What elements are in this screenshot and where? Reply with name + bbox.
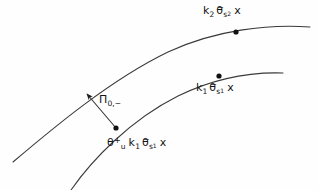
label-mid-point: k1θ−s1x: [196, 82, 234, 95]
top-marker: [233, 29, 238, 34]
x-symbol: x: [234, 4, 241, 17]
theta-overbar: −: [210, 81, 217, 89]
x-symbol: x: [160, 136, 167, 149]
label-projection: Π0,−: [99, 94, 121, 107]
theta-sub-subscript: 1: [153, 142, 157, 149]
theta-u-superscript: +: [114, 136, 121, 145]
label-bottom-point: θ+uk1θ−s1x: [107, 137, 167, 151]
k-symbol: k: [203, 4, 210, 17]
theta-u-subscript: u: [121, 142, 126, 151]
theta-u-symbol: θ: [107, 136, 114, 149]
pi-subscript: 0,−: [107, 99, 120, 108]
k-symbol: k: [196, 81, 203, 94]
k-subscript: 2: [210, 10, 215, 19]
mid-marker: [216, 73, 221, 78]
k-subscript: 1: [135, 142, 140, 151]
theta-bar-group: θ−: [209, 82, 216, 93]
theta-overbar: −: [217, 4, 224, 12]
theta-bar-group: θ−: [142, 137, 149, 148]
theta-sub-subscript: 2: [227, 10, 231, 17]
theta-bar-group: θ−: [216, 5, 223, 16]
diagram-svg: [0, 0, 318, 190]
k-subscript: 1: [203, 87, 208, 96]
label-top-point: k2θ−s2x: [203, 5, 241, 18]
theta-sub-subscript: 1: [220, 87, 224, 94]
x-symbol: x: [227, 81, 234, 94]
theta-overbar: −: [143, 136, 150, 144]
figure-canvas: k2θ−s2x k1θ−s1x θ+uk1θ−s1x Π0,−: [0, 0, 318, 190]
bottom-marker: [113, 125, 118, 130]
